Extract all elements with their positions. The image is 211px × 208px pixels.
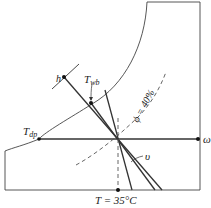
wet-bulb-label: Twb (84, 73, 99, 87)
psychrometric-diagram: h Twb Tdp ω ϕ = 40% υ T = 35°C (0, 0, 211, 208)
specific-volume-label: υ (145, 150, 150, 162)
specific-volume-line (105, 90, 132, 190)
dew-point-label: Tdp (23, 125, 37, 139)
enthalpy-point (62, 75, 66, 79)
enthalpy-label: h (56, 73, 61, 84)
dry-bulb-point (116, 188, 120, 192)
dew-point-label-sub: dp (29, 130, 37, 139)
humidity-ratio-label: ω (203, 133, 211, 145)
wet-bulb-line (91, 103, 155, 190)
relative-humidity-label: ϕ = 40% (130, 88, 156, 124)
wet-bulb-point (89, 101, 93, 105)
dew-point-point (37, 137, 41, 141)
wet-bulb-arrowhead (89, 97, 93, 101)
chart-frame (5, 2, 200, 190)
humidity-ratio-point (196, 137, 200, 141)
dry-bulb-label: T = 35°C (95, 194, 137, 206)
wet-bulb-label-sub: wb (90, 78, 99, 87)
